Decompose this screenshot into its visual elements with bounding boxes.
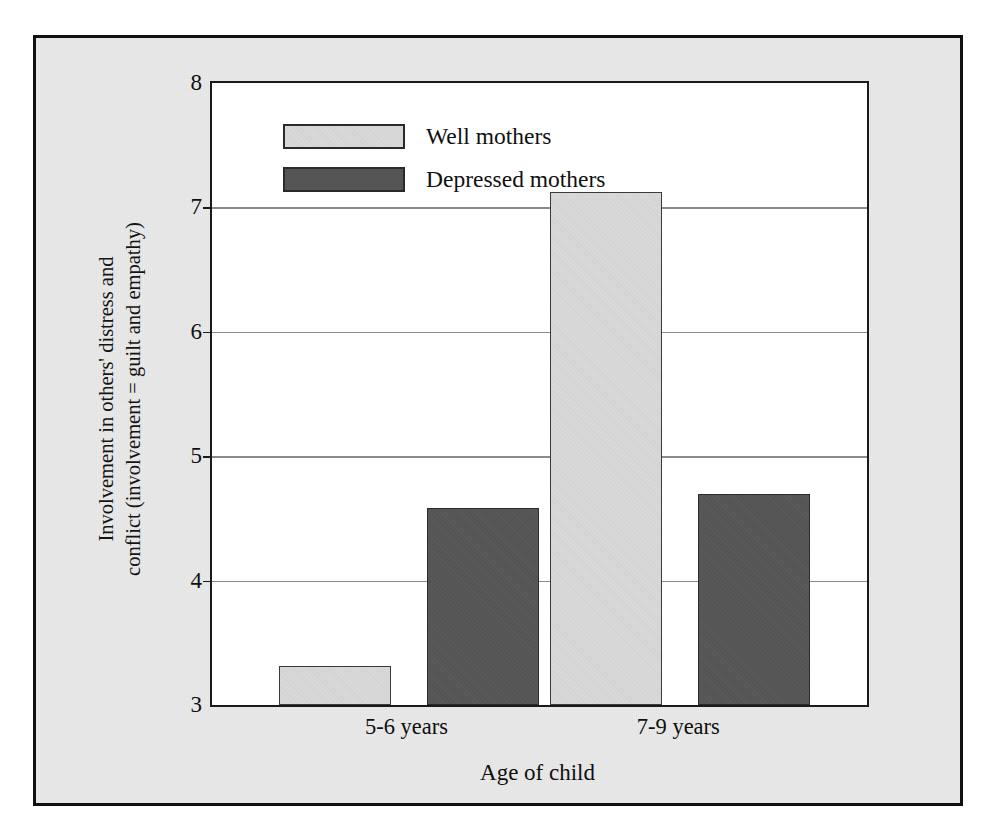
chart-legend: Well mothers Depressed mothers	[283, 118, 605, 204]
y-axis-title: Involvement in others' distress and conf…	[93, 139, 147, 659]
y-axis-title-line-1: Involvement in others' distress and	[93, 139, 120, 659]
y-tick-label: 7	[191, 194, 203, 220]
y-tick-mark	[203, 581, 212, 583]
gridline	[212, 332, 867, 334]
y-tick-mark	[203, 456, 212, 458]
y-tick-mark	[203, 332, 212, 334]
bar-depressed-mothers-7-9-years	[698, 494, 810, 705]
x-axis-title: Age of child	[210, 760, 865, 786]
y-tick-label: 4	[191, 568, 203, 594]
y-axis-title-line-2: conflict (involvement = guilt and empath…	[120, 139, 147, 659]
plot-area: 345678 Well mothers Depressed mothers	[210, 81, 869, 707]
y-tick-label: 8	[191, 70, 203, 96]
legend-label-well-mothers: Well mothers	[426, 123, 551, 150]
y-tick-mark	[203, 207, 212, 209]
y-tick-label: 5	[191, 443, 203, 469]
legend-label-depressed-mothers: Depressed mothers	[426, 166, 605, 193]
y-tick-label: 3	[191, 692, 203, 718]
bar-well-mothers-7-9-years	[550, 192, 662, 705]
bar-depressed-mothers-5-6-years	[427, 508, 539, 705]
legend-item-well-mothers: Well mothers	[283, 118, 605, 154]
y-tick-label: 6	[191, 319, 203, 345]
legend-swatch-depressed-mothers	[283, 167, 405, 192]
x-tick-label: 7-9 years	[637, 714, 720, 740]
legend-swatch-well-mothers	[283, 124, 405, 149]
x-tick-label: 5-6 years	[365, 714, 448, 740]
gridline	[212, 207, 867, 209]
figure-frame: Involvement in others' distress and conf…	[33, 35, 963, 806]
gridline	[212, 456, 867, 458]
legend-item-depressed-mothers: Depressed mothers	[283, 161, 605, 197]
bar-well-mothers-5-6-years	[279, 666, 391, 705]
